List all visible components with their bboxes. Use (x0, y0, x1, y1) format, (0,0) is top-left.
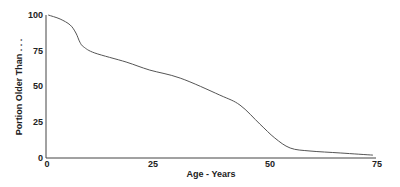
x-tick-0: 0 (44, 159, 49, 169)
y-tick-50: 50 (33, 81, 43, 91)
y-tick-25: 25 (33, 117, 43, 127)
survival-chart: 100 75 50 25 0 0 25 50 75 Age - Years Po… (0, 0, 400, 187)
y-axis-label: Portion Older Than . . . (14, 39, 24, 136)
plot-area (46, 15, 376, 158)
y-tick-0: 0 (38, 153, 43, 163)
x-axis-label: Age - Years (187, 169, 236, 179)
survival-curve (48, 15, 373, 155)
y-tick-100: 100 (28, 10, 43, 20)
x-tick-25: 25 (148, 159, 158, 169)
x-ticks: 0 25 50 75 (44, 159, 382, 169)
x-tick-75: 75 (372, 159, 382, 169)
x-tick-50: 50 (265, 159, 275, 169)
y-tick-75: 75 (33, 46, 43, 56)
y-ticks: 100 75 50 25 0 (28, 10, 43, 163)
